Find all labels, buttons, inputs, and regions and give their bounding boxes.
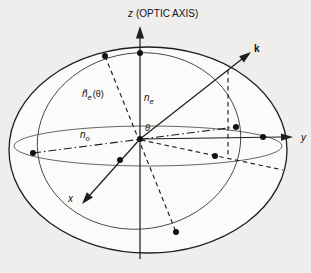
x-axis-equator-point <box>117 157 123 163</box>
k-projection-equator-point <box>212 153 218 159</box>
origin-point <box>137 136 143 142</box>
ellipsoid-outline <box>9 47 287 253</box>
n-o-left-point <box>30 150 36 156</box>
n-o-right-point <box>233 124 239 130</box>
index-ellipsoid-figure: z(OPTIC AXIS) k y x no ne ñe(θ) θ <box>0 0 311 273</box>
index-ellipsoid-diagram: z(OPTIC AXIS) k y x no ne ñe(θ) θ <box>0 0 311 273</box>
n-e-apex-point <box>137 50 143 56</box>
theta-label: θ <box>145 123 150 133</box>
k-vector-label: k <box>254 43 260 54</box>
n-e-theta-upper-point <box>102 53 108 59</box>
x-axis-label: x <box>67 193 74 204</box>
y-axis-label: y <box>300 132 307 143</box>
n-e-theta-lower-point <box>173 229 179 235</box>
y-axis-equator-point <box>260 134 266 140</box>
z-axis-label: z(OPTIC AXIS) <box>127 8 198 19</box>
